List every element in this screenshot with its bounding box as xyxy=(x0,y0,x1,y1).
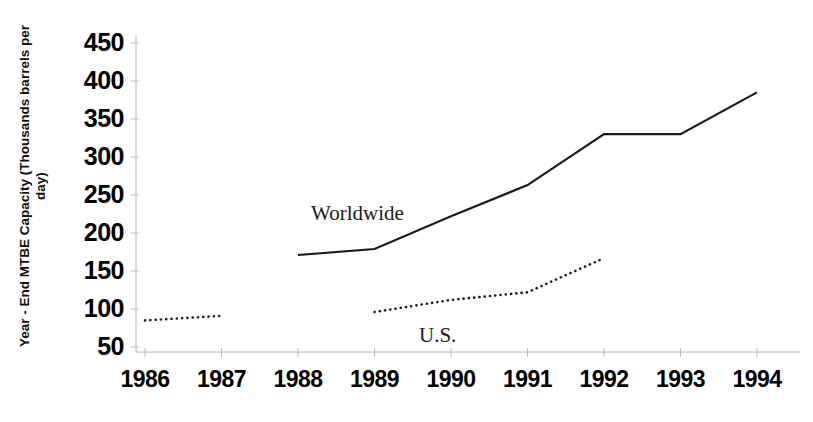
series-line-u-s xyxy=(375,258,605,312)
axis-lines xyxy=(136,36,800,352)
series-label-us: U.S. xyxy=(419,325,456,346)
series-line-worldwide xyxy=(298,92,757,255)
series-lines xyxy=(145,92,757,320)
series-line-u-s xyxy=(145,316,222,321)
plot-area xyxy=(0,0,813,422)
chart-container: Year - End MTBE Capacity (Thousands barr… xyxy=(0,0,813,422)
series-label-worldwide: Worldwide xyxy=(311,203,404,224)
y-axis-ticks xyxy=(131,43,139,347)
